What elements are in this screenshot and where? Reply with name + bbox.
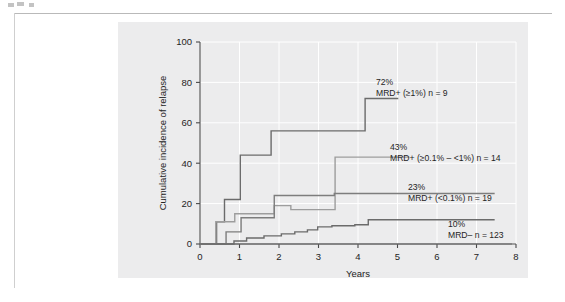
annotation-label: MRD+ (<0.1%) n = 19 <box>408 193 492 203</box>
y-axis-tick-label: 0 <box>187 238 192 249</box>
speckle <box>8 3 14 7</box>
x-axis-tick-label: 6 <box>434 251 439 262</box>
page-root: 020406080100012345678YearsCumulative inc… <box>0 0 565 302</box>
annotation-label: MRD+ (≥1%) n = 9 <box>376 88 448 98</box>
y-axis-tick-label: 20 <box>181 198 192 209</box>
annotation-value: 72% <box>376 77 394 87</box>
y-axis-tick-label: 100 <box>176 36 192 47</box>
relapse-incidence-chart: 020406080100012345678YearsCumulative inc… <box>118 22 528 278</box>
x-axis-tick-label: 1 <box>237 251 242 262</box>
x-axis-tick-label: 3 <box>316 251 321 262</box>
y-axis-tick-label: 80 <box>181 77 192 88</box>
speckle <box>29 3 34 7</box>
x-axis-tick-label: 5 <box>395 251 400 262</box>
x-axis-tick-label: 2 <box>276 251 281 262</box>
y-axis-tick-label: 40 <box>181 158 192 169</box>
card-left-edge <box>14 13 15 288</box>
x-axis-tick-label: 0 <box>197 251 202 262</box>
series-line-43 <box>200 157 409 244</box>
y-axis-title: Cumulative incidence of relapse <box>157 76 168 211</box>
chart-panel: 020406080100012345678YearsCumulative inc… <box>118 22 528 278</box>
y-axis-tick-label: 60 <box>181 117 192 128</box>
x-axis-tick-label: 7 <box>474 251 479 262</box>
annotation-value: 43% <box>390 142 408 152</box>
x-axis-tick-label: 8 <box>513 251 518 262</box>
annotation-label: MRD+ (≥0.1% – <1%) n = 14 <box>390 153 501 163</box>
annotation-value: 10% <box>448 219 466 229</box>
annotation-label: MRD– n = 123 <box>448 230 504 240</box>
top-horizontal-rule <box>14 13 552 14</box>
x-axis-title: Years <box>346 268 370 278</box>
annotation-value: 23% <box>408 182 426 192</box>
x-axis-tick-label: 4 <box>355 251 360 262</box>
scan-artifact-speckles <box>8 2 44 9</box>
speckle <box>17 2 24 6</box>
